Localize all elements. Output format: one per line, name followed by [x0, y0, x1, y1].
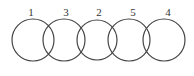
- circle-4: [143, 19, 185, 61]
- circle-label-2: 2: [96, 7, 102, 18]
- circle-5: [108, 19, 150, 61]
- circle-label-5: 5: [130, 7, 136, 18]
- circle-label-3: 3: [63, 7, 69, 18]
- circle-3: [43, 19, 85, 61]
- circle-1: [12, 19, 54, 61]
- circle-label-1: 1: [28, 7, 34, 18]
- circle-2: [77, 20, 117, 60]
- circle-label-4: 4: [165, 7, 171, 18]
